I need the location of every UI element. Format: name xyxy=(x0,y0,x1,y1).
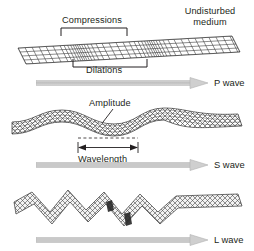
wavelength-measure-arrow-icon xyxy=(76,142,140,154)
panel-l-wave: L wave xyxy=(0,178,254,251)
seismic-wave-diagram: Compressions Undisturbed medium xyxy=(0,0,254,251)
p-wave-direction-arrow-icon xyxy=(36,76,212,90)
s-wave-direction-arrow-icon xyxy=(36,158,212,172)
panel-p-wave: Compressions Undisturbed medium xyxy=(0,0,254,96)
l-wave-type-label: L wave xyxy=(214,234,243,245)
l-wave-direction-arrow-icon xyxy=(36,233,212,247)
s-wave-type-label: S wave xyxy=(214,159,245,170)
panel-s-wave: Amplitude xyxy=(0,96,254,172)
p-wave-type-label: P wave xyxy=(214,77,245,88)
dilations-label: Dilations xyxy=(86,65,122,76)
